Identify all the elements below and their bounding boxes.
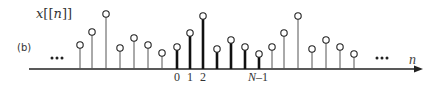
stem-marker <box>214 46 220 52</box>
stem-marker <box>174 44 180 50</box>
tick-label: 1 <box>187 70 193 84</box>
stem-marker <box>228 37 234 43</box>
stem-marker <box>131 35 137 41</box>
stem-marker <box>269 44 275 50</box>
ellipsis-left <box>51 57 64 60</box>
stem-marker <box>159 50 165 56</box>
panel-label: (b) <box>17 42 31 53</box>
stem-marker <box>89 29 95 35</box>
tick-labels: 012N–1 <box>174 70 268 84</box>
stem-marker <box>200 13 206 19</box>
stem-marker <box>77 42 83 48</box>
stem-marker <box>337 44 343 50</box>
tick-label: 2 <box>200 70 206 84</box>
stem-marker <box>295 13 301 19</box>
stem-marker <box>103 11 109 17</box>
periodic-stem-plot: x[[n]] (b) n 012N–1 <box>0 0 433 88</box>
stem-marker <box>256 51 262 57</box>
stems-group <box>77 11 357 69</box>
stem-marker <box>242 44 248 50</box>
figure-title: x[[n]] <box>36 6 72 21</box>
stem-marker <box>351 51 357 57</box>
stem-marker <box>117 45 123 51</box>
stem-marker <box>281 30 287 36</box>
stem-marker <box>187 30 193 36</box>
tick-label: N–1 <box>247 70 268 84</box>
ellipsis-right <box>376 57 389 60</box>
stem-marker <box>145 42 151 48</box>
stem-marker <box>323 37 329 43</box>
stem-marker <box>309 46 315 52</box>
x-axis-label: n <box>409 52 416 67</box>
tick-label: 0 <box>174 70 180 84</box>
